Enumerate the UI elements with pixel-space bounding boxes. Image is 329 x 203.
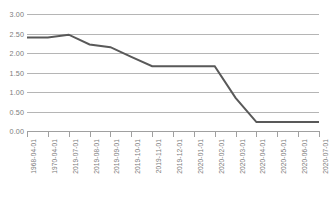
x-tick-label: 2020-05-01 — [280, 139, 287, 174]
x-tick — [194, 131, 195, 137]
y-tick-label: 3.00 — [10, 10, 24, 19]
x-tick-label: 2019-07-01 — [72, 139, 79, 174]
x-tick — [319, 131, 320, 137]
y-axis: 0.000.501.001.502.002.503.00 — [0, 0, 26, 203]
x-tick — [173, 131, 174, 137]
series-1-line — [27, 35, 319, 122]
x-tick-label: 2020-01-01 — [197, 139, 204, 174]
x-tick-label: 2020-06-01 — [301, 139, 308, 174]
x-axis-ticks — [27, 131, 319, 138]
x-tick-label: 2020-03-01 — [239, 139, 246, 174]
x-tick-label: 1968-04-01 — [30, 139, 37, 174]
series-line-group — [27, 14, 319, 131]
y-tick-label: 2.00 — [10, 49, 24, 58]
x-tick — [48, 131, 49, 137]
y-tick-label: 1.00 — [10, 88, 24, 97]
x-tick — [90, 131, 91, 137]
x-tick — [256, 131, 257, 137]
x-tick — [110, 131, 111, 137]
x-tick — [131, 131, 132, 137]
x-tick — [69, 131, 70, 137]
x-tick-label: 2019-11-01 — [155, 139, 162, 173]
x-axis: 1968-04-011970-04-012019-07-012019-08-01… — [27, 139, 319, 199]
x-tick — [152, 131, 153, 137]
y-tick-label: 2.50 — [10, 29, 24, 38]
plot-area — [27, 14, 319, 131]
x-tick-label: 2020-04-01 — [259, 139, 266, 174]
x-tick-label: 2019-08-01 — [93, 139, 100, 174]
x-tick-label: 2020-02-01 — [218, 139, 225, 174]
y-tick-label: 1.50 — [10, 68, 24, 77]
x-tick-label: 1970-04-01 — [51, 139, 58, 174]
y-tick-label: 0.00 — [10, 127, 24, 136]
x-tick — [298, 131, 299, 137]
x-tick-label: 2019-10-01 — [134, 139, 141, 174]
x-tick-label: 2019-12-01 — [176, 139, 183, 174]
x-tick — [277, 131, 278, 137]
x-tick — [215, 131, 216, 137]
x-tick — [236, 131, 237, 137]
x-tick — [27, 131, 28, 137]
y-tick-label: 0.50 — [10, 107, 24, 116]
x-tick-label: 2019-09-01 — [113, 139, 120, 174]
x-tick-label: 2020-07-01 — [322, 139, 329, 174]
